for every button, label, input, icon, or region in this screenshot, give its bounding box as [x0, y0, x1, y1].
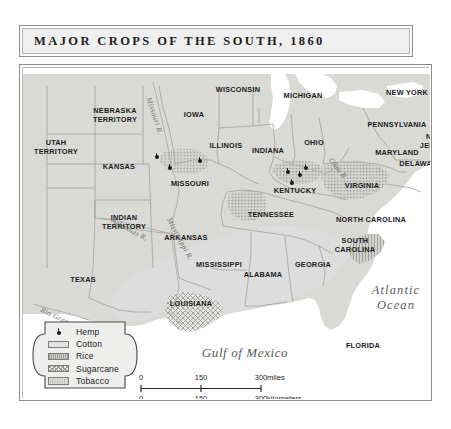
hemp-dot-icon [155, 155, 159, 159]
map-legend: HempCottonRiceSugarcaneTobacco [31, 320, 139, 390]
tobacco-region-kentucky [273, 160, 323, 184]
rice-swatch-icon [48, 353, 69, 361]
legend-item-hemp[interactable]: Hemp [48, 326, 134, 338]
legend-label-cotton: Cotton [76, 339, 102, 349]
scale-tick-kilometers-300: 300 [255, 394, 268, 399]
legend-rows: HempCottonRiceSugarcaneTobacco [48, 326, 134, 387]
cotton-swatch-icon [48, 341, 69, 349]
legend-label-tobacco: Tobacco [76, 376, 109, 386]
scale-bar-graphic [135, 384, 275, 393]
scale-tick-kilometers-150: 150 [195, 394, 208, 399]
map-frame: WISCONSINMICHIGANNEW YORKIOWAPENNSYLVANI… [19, 64, 432, 401]
scale-unit-kilometers: kilometers [267, 394, 302, 399]
scale-tick-miles-300: 300 [255, 373, 268, 382]
hemp-dot-icon [198, 159, 202, 163]
scale-miles-labels: 0150300miles [135, 373, 275, 382]
map-title-bar: MAJOR CROPS OF THE SOUTH, 1860 [19, 25, 413, 57]
hemp-dot-icon [290, 181, 294, 185]
hemp-dot-icon [304, 166, 308, 170]
hemp-dot-icon [286, 170, 290, 174]
hemp-dot-icon [168, 166, 172, 170]
map-scale: 0150300miles 0150300kilometers [135, 373, 275, 399]
legend-item-cotton[interactable]: Cotton [48, 338, 134, 350]
hemp-dot-icon [298, 173, 302, 177]
hemp-dot-icon [57, 331, 61, 335]
legend-item-sugarcane[interactable]: Sugarcane [48, 363, 134, 375]
legend-item-rice[interactable]: Rice [48, 350, 134, 362]
map-canvas: WISCONSINMICHIGANNEW YORKIOWAPENNSYLVANI… [23, 68, 430, 399]
scale-unit-miles: miles [267, 373, 285, 382]
scale-tick-miles-0: 0 [139, 373, 143, 382]
hemp-dot-icon [48, 328, 69, 337]
scale-tick-miles-150: 150 [195, 373, 208, 382]
page-title: MAJOR CROPS OF THE SOUTH, 1860 [34, 34, 325, 49]
tobacco-swatch-icon [48, 377, 69, 385]
scale-tick-kilometers-0: 0 [139, 394, 143, 399]
legend-label-hemp: Hemp [76, 327, 100, 337]
sugarcane-swatch-icon [48, 365, 69, 373]
legend-label-sugarcane: Sugarcane [76, 364, 119, 374]
scale-kilometers-labels: 0150300kilometers [135, 394, 275, 399]
legend-label-rice: Rice [76, 351, 94, 361]
legend-item-tobacco[interactable]: Tobacco [48, 375, 134, 387]
